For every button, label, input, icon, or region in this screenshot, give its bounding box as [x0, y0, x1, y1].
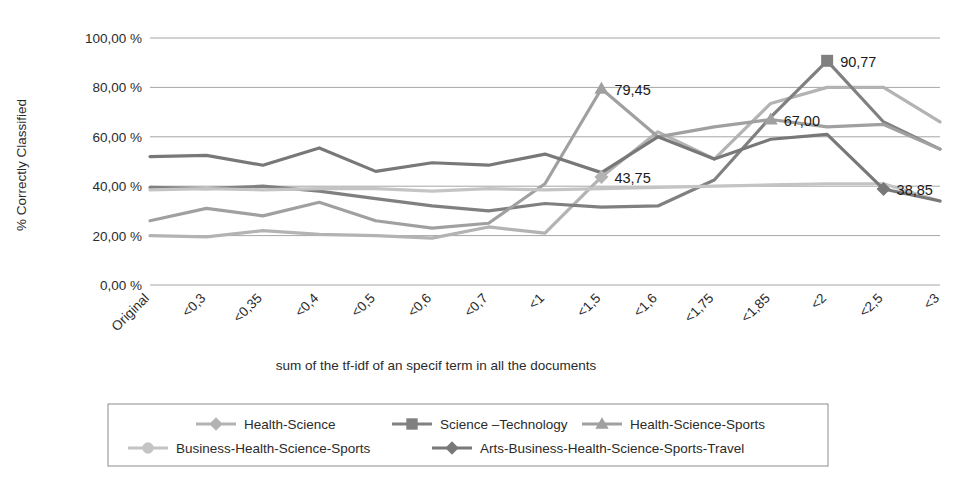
line-chart: 0,00 %20,00 %40,00 %60,00 %80,00 %100,00…: [0, 0, 970, 492]
marker-square: [821, 55, 833, 67]
legend-label: Health-Science-Sports: [630, 417, 765, 432]
marker-square: [406, 418, 417, 429]
legend-label: Health-Science: [244, 417, 336, 432]
y-tick-label: 20,00 %: [92, 229, 142, 244]
data-label: 67,00: [784, 113, 820, 129]
y-tick-label: 60,00 %: [92, 130, 142, 145]
y-tick-label: 40,00 %: [92, 179, 142, 194]
legend-label: Science –Technology: [440, 417, 568, 432]
legend-label: Business-Health-Science-Sports: [176, 441, 371, 456]
legend-label: Arts-Business-Health-Science-Sports-Trav…: [480, 441, 744, 456]
marker-circle: [142, 442, 153, 453]
y-axis-title: % Correctly Classified: [14, 99, 29, 231]
data-label: 43,75: [614, 170, 650, 186]
legend-border: [108, 404, 828, 466]
y-tick-label: 100,00 %: [85, 31, 142, 46]
chart-container: 0,00 %20,00 %40,00 %60,00 %80,00 %100,00…: [0, 0, 970, 492]
data-label: 38,85: [897, 182, 933, 198]
x-axis-title: sum of the tf-idf of an specif term in a…: [276, 358, 597, 373]
chart-legend: Health-ScienceScience –TechnologyHealth-…: [108, 404, 828, 466]
y-tick-label: 0,00 %: [100, 278, 142, 293]
data-label: 90,77: [840, 54, 876, 70]
y-tick-label: 80,00 %: [92, 80, 142, 95]
data-label: 79,45: [614, 82, 650, 98]
